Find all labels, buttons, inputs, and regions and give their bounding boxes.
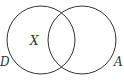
venn-diagram: X D A — [0, 0, 124, 84]
set-d-circle — [7, 6, 75, 74]
set-d-label: D — [0, 55, 10, 69]
set-a-circle — [48, 6, 116, 74]
set-a-label: A — [113, 55, 123, 69]
region-x-label: X — [29, 34, 39, 48]
